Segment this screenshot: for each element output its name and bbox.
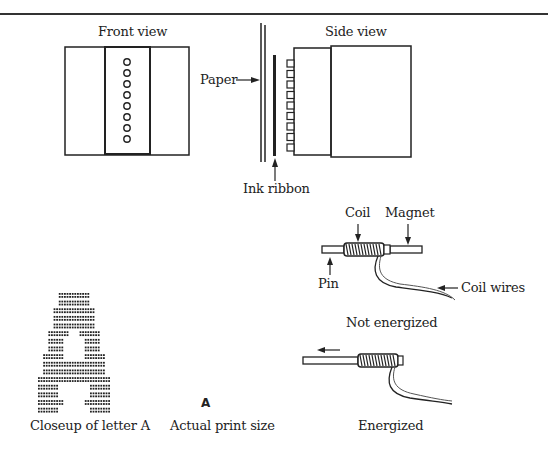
coil-wires-label: Coil wires (461, 280, 525, 295)
solenoid-not-energized (322, 224, 458, 300)
front-view-printhead (65, 47, 189, 155)
solenoid-energized (303, 347, 452, 404)
diagram-canvas (0, 0, 548, 460)
front-view-pins (124, 59, 130, 142)
paper-label: Paper (200, 72, 237, 87)
magnet-rod (390, 246, 422, 253)
not-energized-caption: Not energized (346, 315, 437, 330)
pin-rod-extended (303, 357, 358, 364)
ink-ribbon-label: Ink ribbon (243, 181, 310, 196)
ink-ribbon (273, 55, 276, 156)
side-view-pins (287, 60, 294, 151)
coil-arrow (355, 234, 361, 242)
energized-caption: Energized (358, 418, 423, 433)
closeup-caption: Closeup of letter A (30, 418, 150, 433)
actual-size-letter: A (201, 396, 210, 410)
ink-ribbon-arrow (272, 158, 278, 181)
side-view-label: Side view (325, 24, 387, 39)
magnet-label: Magnet (385, 205, 434, 220)
dot-matrix-letter-a (38, 293, 110, 413)
pin-arrow (327, 257, 333, 265)
motion-arrow (317, 347, 325, 353)
coil-label: Coil (345, 205, 370, 220)
actual-size-caption: Actual print size (170, 418, 275, 433)
paper-arrow (236, 77, 260, 83)
front-view-label: Front view (98, 24, 167, 39)
pin-rod (322, 246, 344, 253)
side-view-printhead (287, 46, 411, 157)
coil-wires (389, 367, 452, 404)
coil-wires-arrow (437, 285, 445, 291)
pin-label: Pin (318, 276, 339, 291)
magnet-arrow (405, 237, 411, 245)
paper-sheet (261, 23, 265, 162)
